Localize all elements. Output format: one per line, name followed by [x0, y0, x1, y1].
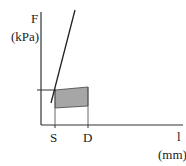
shaded-region — [55, 87, 88, 108]
x-tick-label-d: D — [83, 131, 92, 144]
x-axis-unit-label: (mm) — [158, 148, 186, 161]
x-tick-label-s: S — [50, 131, 57, 144]
x-axis-variable-label: l — [177, 130, 181, 143]
y-axis-variable-label: F — [31, 12, 38, 25]
y-axis-unit-label: (kPa) — [11, 30, 39, 43]
force-length-diagram — [0, 0, 186, 166]
